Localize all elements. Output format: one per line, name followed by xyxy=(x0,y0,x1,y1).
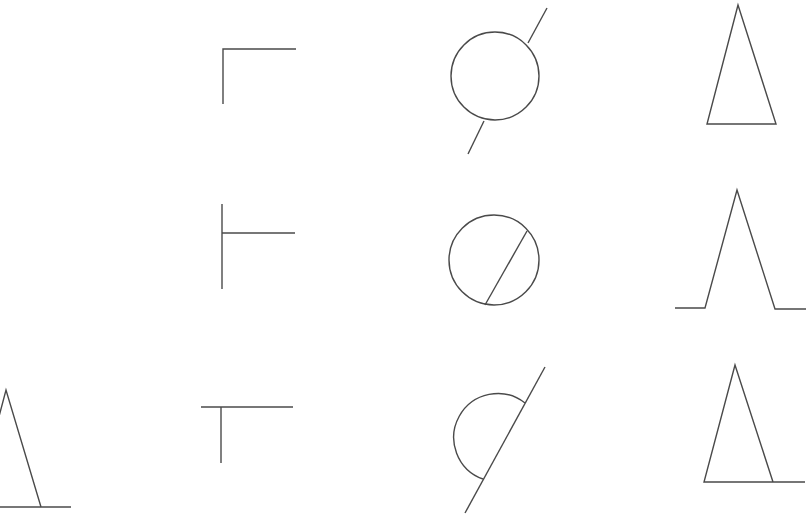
triangle-extended-base-shape xyxy=(704,365,805,482)
t-shape xyxy=(201,407,293,463)
triangle-shape xyxy=(707,5,776,124)
peak-with-tails-shape xyxy=(675,190,806,309)
circle-with-line-shape xyxy=(451,8,547,154)
circle-with-chord-shape xyxy=(449,215,539,305)
partial-triangle-shape xyxy=(0,390,71,507)
corner-top-left-shape xyxy=(223,49,296,104)
half-circle-on-line-shape xyxy=(454,367,545,513)
figure-grid xyxy=(0,0,806,516)
vertical-line-branch-shape xyxy=(222,204,295,289)
